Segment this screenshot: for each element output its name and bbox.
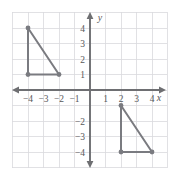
x-tick-label: −1 — [69, 94, 79, 104]
y-tick-label: −4 — [75, 148, 85, 158]
vertex-marker — [119, 150, 124, 155]
x-tick-label: −3 — [38, 94, 48, 104]
x-tick-label: 1 — [103, 94, 108, 104]
vertex-marker — [26, 72, 31, 77]
x-tick-label: −4 — [23, 94, 33, 104]
y-tick-label: 4 — [80, 24, 85, 34]
coordinate-plane-svg: x y −4 −3 −2 −1 1 2 3 4 4 3 2 1 −2 −3 −4 — [0, 0, 174, 187]
vertex-marker — [26, 26, 31, 31]
vertex-marker — [57, 72, 62, 77]
x-tick-label: 3 — [134, 94, 139, 104]
vertex-marker — [119, 103, 124, 108]
y-tick-label: −3 — [75, 132, 85, 142]
x-tick-label: −2 — [54, 94, 64, 104]
y-tick-label: 3 — [80, 39, 85, 49]
y-tick-label: 2 — [80, 55, 85, 65]
vertex-marker — [150, 150, 155, 155]
y-tick-label: 1 — [80, 70, 85, 80]
coordinate-plane-figure: x y −4 −3 −2 −1 1 2 3 4 4 3 2 1 −2 −3 −4 — [0, 0, 174, 187]
x-tick-label: 2 — [119, 94, 124, 104]
x-tick-label: 4 — [150, 94, 155, 104]
y-axis-label: y — [97, 12, 103, 23]
y-tick-label: −2 — [75, 117, 85, 127]
x-axis-label: x — [156, 92, 162, 103]
